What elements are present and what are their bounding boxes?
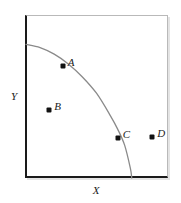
x-axis-label: X [93,185,100,196]
curve-layer [0,0,181,203]
data-point-label-b: B [54,100,61,111]
figure-container: A B C D Y X [0,0,181,203]
data-point-label-c: C [123,129,130,140]
y-axis-label: Y [11,91,17,102]
data-point-label-a: A [68,57,75,68]
data-point-a [60,64,65,69]
production-possibility-curve [26,44,132,178]
data-point-c [115,136,120,141]
data-point-b [47,107,52,112]
data-point-label-d: D [157,128,165,139]
data-point-d [150,135,155,140]
